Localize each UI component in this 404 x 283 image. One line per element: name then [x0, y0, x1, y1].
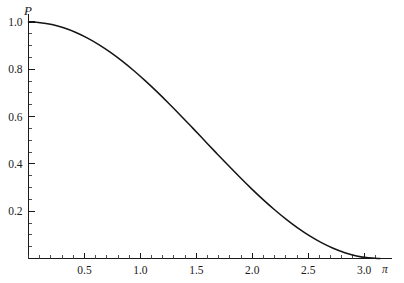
y-tick-label: 0.4 — [8, 158, 23, 170]
x-tick-labels: 0.51.01.52.02.53.0 — [77, 264, 371, 276]
x-tick-label: 1.0 — [133, 264, 148, 276]
x-tick-label: 0.5 — [77, 264, 92, 276]
plot-svg: 0.51.01.52.02.53.0 0.20.40.60.81.0 P π — [0, 0, 404, 283]
y-tick-labels: 0.20.40.60.81.0 — [8, 16, 23, 217]
x-tick-label: 2.5 — [301, 264, 316, 276]
y-major-ticks — [29, 22, 35, 211]
plot-figure: 0.51.01.52.02.53.0 0.20.40.60.81.0 P π — [0, 0, 404, 283]
y-tick-label: 0.6 — [8, 111, 23, 123]
y-axis-title: P — [23, 3, 32, 18]
data-curve-P — [29, 22, 381, 259]
y-tick-label: 0.2 — [8, 205, 23, 217]
y-tick-label: 0.8 — [8, 63, 23, 75]
x-tick-label: 1.5 — [189, 264, 204, 276]
x-axis-pi-label: π — [382, 263, 389, 275]
axes-group — [29, 14, 393, 259]
x-tick-label: 2.0 — [245, 264, 260, 276]
x-major-ticks — [84, 253, 364, 259]
x-tick-label: 3.0 — [357, 264, 372, 276]
y-tick-label: 1.0 — [8, 16, 23, 28]
